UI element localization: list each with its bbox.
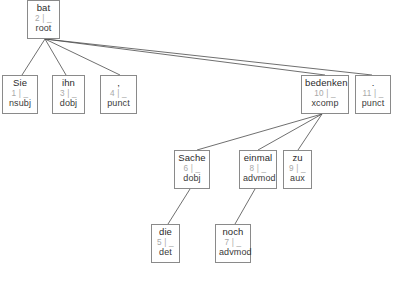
token-word: , [104, 78, 133, 89]
token-word: einmal [243, 153, 273, 164]
token-word: bat [31, 3, 56, 14]
token-index: 4 | _ [104, 89, 133, 98]
token-node-n3[interactable]: ihn3 | _dobj [52, 75, 85, 114]
edge-n2-n3 [45, 39, 66, 75]
edge-n2-n11 [45, 39, 372, 75]
token-relation: root [31, 23, 56, 33]
token-relation: det [155, 247, 176, 257]
token-relation: nsubj [6, 98, 34, 108]
token-index: 9 | _ [287, 164, 308, 173]
token-word: noch [219, 227, 247, 238]
token-word: Sache [178, 153, 206, 164]
token-node-n9[interactable]: zu9 | _aux [283, 150, 312, 189]
token-word: . [359, 78, 387, 89]
token-node-n11[interactable]: .11 | _punct [355, 75, 391, 114]
token-relation: punct [359, 98, 387, 108]
token-relation: punct [104, 98, 133, 108]
token-index: 11 | _ [359, 89, 387, 98]
edge-n2-n4 [45, 39, 120, 75]
token-node-n7[interactable]: noch7 | _advmod [215, 224, 251, 263]
token-word: zu [287, 153, 308, 164]
edge-n10-n9 [298, 114, 322, 150]
token-word: Sie [6, 78, 34, 89]
dependency-tree-diagram: bat2 | _rootSie1 | _nsubjihn3 | _dobj,4 … [0, 0, 394, 281]
token-relation: advmod [219, 247, 247, 257]
token-node-n6[interactable]: Sache6 | _dobj [174, 150, 210, 189]
token-index: 3 | _ [56, 89, 81, 98]
token-relation: dobj [178, 173, 206, 183]
token-node-n1[interactable]: Sie1 | _nsubj [2, 75, 38, 114]
token-index: 5 | _ [155, 238, 176, 247]
token-index: 2 | _ [31, 14, 56, 23]
token-relation: xcomp [305, 98, 345, 108]
token-relation: dobj [56, 98, 81, 108]
token-word: die [155, 227, 176, 238]
token-relation: advmod [243, 173, 273, 183]
token-node-n4[interactable]: ,4 | _punct [100, 75, 137, 114]
edge-n8-n7 [235, 189, 255, 224]
edge-n6-n5 [168, 189, 190, 224]
token-node-n5[interactable]: die5 | _det [151, 224, 180, 263]
edge-n2-n10 [45, 39, 325, 75]
token-index: 8 | _ [243, 164, 273, 173]
token-relation: aux [287, 173, 308, 183]
edge-n2-n1 [22, 39, 45, 75]
token-node-n2[interactable]: bat2 | _root [27, 0, 60, 39]
token-node-n8[interactable]: einmal8 | _advmod [239, 150, 277, 189]
edge-n10-n6 [197, 114, 322, 150]
token-index: 1 | _ [6, 89, 34, 98]
token-index: 7 | _ [219, 238, 247, 247]
token-word: bedenken [305, 78, 345, 89]
token-word: ihn [56, 78, 81, 89]
edge-n10-n8 [258, 114, 322, 150]
token-node-n10[interactable]: bedenken10 | _xcomp [301, 75, 349, 114]
token-index: 6 | _ [178, 164, 206, 173]
edge-layer [0, 0, 394, 281]
token-index: 10 | _ [305, 89, 345, 98]
